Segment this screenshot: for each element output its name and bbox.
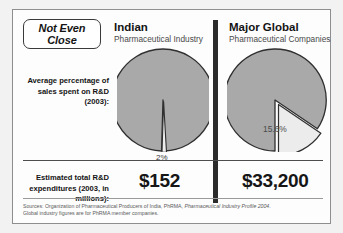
section-rule-middle bbox=[23, 160, 323, 161]
headline-line-2: Close bbox=[47, 34, 76, 46]
metric-caption: Average percentage of sales spent on R&D… bbox=[17, 76, 109, 108]
column-title-global: Major Global bbox=[229, 21, 330, 34]
column-header-global: Major Global Pharmaceutical Companies bbox=[229, 21, 330, 45]
column-title-indian: Indian bbox=[114, 21, 203, 34]
sources-line-1-suffix: . bbox=[269, 203, 270, 209]
infographic-card: Not Even Close Average percentage of sal… bbox=[12, 9, 331, 224]
value-indian: $152 bbox=[139, 170, 180, 192]
value-global: $33,200 bbox=[242, 170, 309, 192]
sources-line-2: Global industry figures are for PhRMA me… bbox=[23, 210, 159, 216]
sources-note: Sources: Organization of Pharmaceutical … bbox=[23, 203, 319, 218]
sources-line-1-prefix: Sources: Organization of Pharmaceutical … bbox=[23, 203, 184, 209]
section-rule-bottom bbox=[23, 198, 323, 199]
column-subtitle-indian: Pharmaceutical Industry bbox=[114, 34, 203, 45]
headline-badge-text: Not Even Close bbox=[39, 22, 86, 47]
sources-publication-title: Pharmaceutical Industry Profile 2004 bbox=[184, 203, 269, 209]
headline-line-1: Not Even bbox=[39, 22, 86, 34]
pie-chart-global bbox=[227, 48, 331, 152]
total-caption: Estimated total R&D expenditures (2003, … bbox=[17, 173, 109, 205]
headline-badge: Not Even Close bbox=[23, 19, 101, 49]
infographic-page: Not Even Close Average percentage of sal… bbox=[0, 0, 343, 233]
pie-slice-label-indian: 2% bbox=[156, 153, 168, 162]
column-subtitle-global: Pharmaceutical Companies bbox=[229, 34, 330, 45]
pie-chart-indian bbox=[117, 48, 209, 152]
pie-slice-label-global: 15.6% bbox=[263, 124, 287, 134]
column-divider bbox=[213, 20, 218, 203]
column-header-indian: Indian Pharmaceutical Industry bbox=[114, 21, 203, 45]
